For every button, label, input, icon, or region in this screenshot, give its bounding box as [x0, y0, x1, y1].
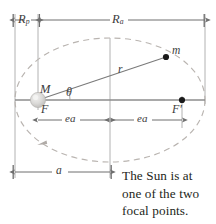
label-ea-left: ea	[65, 113, 75, 124]
orbit-diagram-figure: Rp Ra M F F' m r θ ea ea a The Sun is at…	[0, 0, 216, 224]
planet-dot	[163, 54, 169, 60]
caption-line-2: one of the two	[122, 185, 214, 203]
label-radius: r	[118, 64, 122, 76]
caption-line-1: The Sun is at	[122, 167, 214, 185]
sun-highlight	[33, 95, 38, 100]
label-orbiting-mass: m	[172, 45, 180, 57]
caption-line-3: focal points.	[122, 202, 214, 220]
caption-block: The Sun is at one of the two focal point…	[122, 167, 214, 220]
label-semi-major-axis: a	[56, 165, 62, 177]
label-central-mass: M	[40, 83, 50, 96]
radius-vector-line	[38, 57, 166, 100]
label-perihelion: Rp	[18, 13, 30, 26]
label-aphelion: Ra	[112, 13, 124, 26]
label-focus-right: F'	[172, 103, 182, 115]
label-angle-theta: θ	[66, 86, 72, 98]
label-ea-right: ea	[137, 113, 147, 124]
dimension-semi-major-axis	[13, 165, 111, 179]
label-focus-left: F	[41, 103, 48, 115]
